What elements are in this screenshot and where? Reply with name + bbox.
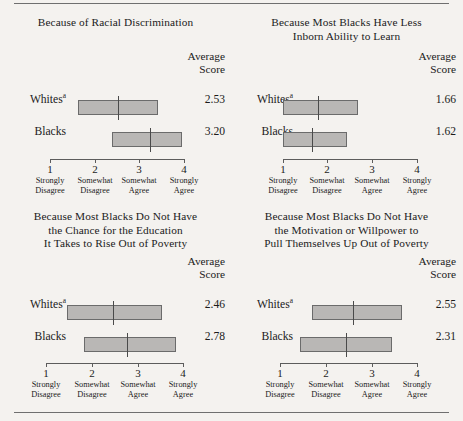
x-axis-line: [280, 363, 417, 364]
row-label-text: Blacks: [34, 330, 66, 343]
panel-title-line: the Chance for the Education: [6, 224, 225, 238]
x-axis-line: [50, 159, 184, 160]
x-tick-number: 3: [360, 163, 384, 175]
panel-chance-for-education: Because Most Blacks Do Not Have the Chan…: [0, 208, 231, 408]
x-tick-number: 1: [271, 163, 295, 175]
x-tick-label-line1: Strongly: [257, 380, 303, 390]
average-score-blacks: 2.78: [185, 330, 225, 343]
average-score-whites: 1.66: [413, 93, 456, 106]
average-score-header: Average Score: [419, 255, 456, 281]
x-tick-label-line2: Agree: [115, 390, 161, 400]
x-tick-label-line1: Strongly: [160, 380, 206, 390]
box-whites: [67, 305, 162, 320]
row-label-text: Whites: [30, 298, 63, 311]
x-tick-label-line1: Strongly: [260, 176, 306, 186]
x-tick-label-line1: Strongly: [161, 176, 207, 186]
x-tick-label-line2: Disagree: [27, 186, 73, 196]
x-tick-label-line1: Somewhat: [69, 380, 115, 390]
x-tick-label-line2: Disagree: [304, 186, 350, 196]
x-tick-label-line1: Somewhat: [115, 380, 161, 390]
x-tick-label: Somewhat Disagree: [69, 380, 115, 399]
x-tick-number: 4: [405, 163, 429, 175]
box-whites: [283, 100, 358, 115]
row-label-text: Whites: [30, 93, 63, 106]
average-score-blacks: 3.20: [185, 125, 225, 138]
x-tick-label: Somewhat Agree: [349, 380, 395, 399]
footnote-marker: a: [63, 91, 66, 100]
x-tick-label: Somewhat Disagree: [72, 176, 118, 195]
row-label-blacks: Blacks: [6, 330, 66, 343]
average-header-line2: Score: [188, 63, 225, 76]
x-tick-number: 2: [83, 163, 107, 175]
average-score-blacks: 2.31: [413, 330, 456, 343]
average-score-header: Average Score: [188, 255, 225, 281]
x-tick-label-line1: Strongly: [27, 176, 73, 186]
panel-motivation-willpower: Because Most Blacks Do Not Have the Moti…: [231, 208, 462, 408]
panel-racial-discrimination: Because of Racial Discrimination Average…: [0, 14, 231, 214]
panel-title-line: the Motivation or Willpower to: [237, 224, 456, 238]
average-score-whites: 2.55: [413, 298, 456, 311]
x-tick-label-line2: Disagree: [69, 390, 115, 400]
row-label-text: Blacks: [261, 330, 293, 343]
x-tick-label-line1: Somewhat: [72, 176, 118, 186]
x-tick-label-line1: Strongly: [394, 176, 440, 186]
panel-title: Because Most Blacks Do Not Have the Chan…: [6, 210, 225, 251]
average-header-line1: Average: [188, 50, 225, 63]
average-header-line2: Score: [419, 268, 456, 281]
median-line-whites: [318, 96, 319, 120]
x-axis-line: [46, 363, 183, 364]
x-tick-number: 4: [405, 367, 429, 379]
panel-title-line: It Takes to Rise Out of Poverty: [6, 237, 225, 251]
x-tick-number: 4: [171, 367, 195, 379]
x-tick-number: 3: [127, 163, 151, 175]
x-axis-line: [283, 159, 417, 160]
footnote-marker: a: [290, 91, 293, 100]
panel-title-line: Inborn Ability to Learn: [237, 30, 456, 44]
x-tick-label: Strongly Disagree: [23, 380, 69, 399]
x-tick-number: 4: [172, 163, 196, 175]
box-blacks: [283, 132, 347, 147]
x-tick-label: Somewhat Disagree: [303, 380, 349, 399]
panel-title-line: Because Most Blacks Have Less: [237, 16, 456, 30]
x-tick-label-line2: Disagree: [260, 186, 306, 196]
x-tick-label: Strongly Disagree: [257, 380, 303, 399]
x-tick-label: Strongly Agree: [394, 380, 440, 399]
average-header-line2: Score: [188, 268, 225, 281]
bottom-horizontal-rule: [14, 412, 449, 413]
average-header-line1: Average: [419, 255, 456, 268]
x-tick-number: 2: [314, 367, 338, 379]
x-tick-label: Somewhat Agree: [115, 380, 161, 399]
average-header-line1: Average: [419, 50, 456, 63]
median-line-blacks: [127, 333, 128, 357]
box-blacks: [84, 337, 176, 352]
x-tick-label-line1: Strongly: [23, 380, 69, 390]
row-label-blacks: Blacks: [6, 125, 66, 138]
panel-title-line: Because Most Blacks Do Not Have: [237, 210, 456, 224]
x-tick-label-line1: Somewhat: [349, 176, 395, 186]
x-tick-label: Strongly Agree: [394, 176, 440, 195]
median-line-blacks: [150, 128, 151, 152]
x-tick-label-line2: Agree: [160, 390, 206, 400]
panel-title-line: Because of Racial Discrimination: [6, 16, 225, 30]
average-score-blacks: 1.62: [413, 125, 456, 138]
x-tick-label-line2: Disagree: [257, 390, 303, 400]
x-tick-label-line2: Agree: [394, 390, 440, 400]
panel-title: Because Most Blacks Do Not Have the Moti…: [237, 210, 456, 251]
x-tick-label-line2: Agree: [349, 186, 395, 196]
x-tick-label-line2: Disagree: [72, 186, 118, 196]
row-label-whites: Whitesa: [6, 93, 66, 106]
x-tick-label: Strongly Agree: [160, 380, 206, 399]
panel-title-line: Because Most Blacks Do Not Have: [6, 210, 225, 224]
x-tick-label: Somewhat Agree: [349, 176, 395, 195]
x-tick-label: Somewhat Agree: [116, 176, 162, 195]
x-tick-label-line1: Somewhat: [304, 176, 350, 186]
panel-inborn-ability: Because Most Blacks Have Less Inborn Abi…: [231, 14, 462, 214]
median-line-whites: [113, 301, 114, 325]
average-header-line2: Score: [419, 63, 456, 76]
x-tick-label-line1: Strongly: [394, 380, 440, 390]
figure-page: Because of Racial Discrimination Average…: [0, 0, 463, 421]
box-blacks: [112, 132, 182, 147]
x-tick-label-line1: Somewhat: [349, 380, 395, 390]
x-tick-label-line2: Agree: [349, 390, 395, 400]
panel-title: Because of Racial Discrimination: [6, 16, 225, 30]
